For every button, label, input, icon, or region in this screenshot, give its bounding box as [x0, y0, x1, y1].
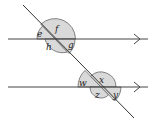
label-y: y: [112, 90, 119, 100]
label-z: z: [94, 90, 100, 100]
label-x: x: [99, 75, 104, 85]
parallel-lines-diagram: e f h g w x z y: [0, 0, 157, 122]
transversal-line: [23, 5, 134, 118]
label-g: g: [68, 40, 74, 50]
label-w: w: [79, 78, 87, 88]
label-h: h: [46, 42, 52, 52]
label-e: e: [37, 29, 42, 39]
